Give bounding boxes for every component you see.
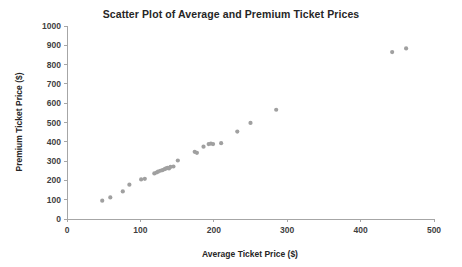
data-point (404, 46, 408, 50)
data-point (171, 164, 175, 168)
x-tick-label: 400 (354, 225, 368, 235)
data-point (390, 50, 394, 54)
y-tick-label: 200 (47, 175, 61, 185)
data-point (139, 177, 143, 181)
data-point (176, 158, 180, 162)
scatter-chart: Scatter Plot of Average and Premium Tick… (0, 0, 462, 267)
data-point (121, 189, 125, 193)
data-point (100, 199, 104, 203)
x-tick-label: 500 (427, 225, 441, 235)
x-axis-ticks: 0100200300400500 (65, 219, 442, 235)
data-point (235, 129, 239, 133)
data-point (219, 141, 223, 145)
y-tick-label: 400 (47, 137, 61, 147)
y-axis-title: Premium Ticket Price ($) (14, 72, 24, 171)
y-tick-label: 800 (47, 60, 61, 70)
y-tick-label: 100 (47, 195, 61, 205)
data-point (143, 177, 147, 181)
x-tick-label: 0 (65, 225, 70, 235)
x-tick-label: 300 (280, 225, 294, 235)
y-tick-label: 700 (47, 79, 61, 89)
x-axis-title: Average Ticket Price ($) (202, 249, 298, 259)
y-tick-label: 900 (47, 40, 61, 50)
data-point (201, 145, 205, 149)
y-tick-label: 1000 (42, 21, 61, 31)
data-point (127, 183, 131, 187)
y-tick-label: 0 (56, 214, 61, 224)
data-points (100, 46, 408, 202)
data-point (211, 142, 215, 146)
data-point (248, 121, 252, 125)
y-tick-label: 300 (47, 156, 61, 166)
y-axis-ticks: 01002003004005006007008009001000 (42, 21, 67, 224)
data-point (195, 151, 199, 155)
x-tick-label: 100 (133, 225, 147, 235)
data-point (274, 108, 278, 112)
data-point (108, 195, 112, 199)
y-tick-label: 500 (47, 118, 61, 128)
x-tick-label: 200 (207, 225, 221, 235)
y-tick-label: 600 (47, 98, 61, 108)
plot-area: 01002003004005006007008009001000 0100200… (0, 0, 462, 267)
